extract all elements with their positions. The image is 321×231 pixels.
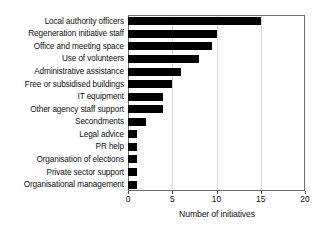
category-label: Local authority officers	[45, 17, 124, 26]
category-label: Private sector support	[47, 168, 124, 177]
bar-row	[128, 78, 306, 91]
category-label: Other agency staff support	[30, 105, 124, 114]
category-label-row: Regeneration initiative staff	[0, 28, 126, 41]
category-label-row: Secondments	[0, 116, 126, 129]
tick-label: 5	[170, 194, 175, 204]
category-label-row: Organisational management	[0, 178, 126, 191]
category-label-row: Free or subsidised buildings	[0, 78, 126, 91]
category-label: Administrative assistance	[34, 67, 124, 76]
bar-row	[128, 166, 306, 179]
bar-row	[128, 40, 306, 53]
category-label: Use of volunteers	[62, 54, 124, 63]
bar-row	[128, 103, 306, 116]
category-label: Organisation of elections	[36, 155, 124, 164]
category-label: Office and meeting space	[34, 42, 124, 51]
category-label-row: Private sector support	[0, 166, 126, 179]
bar	[128, 80, 172, 88]
bar	[128, 118, 146, 126]
category-label: Regeneration initiative staff	[28, 29, 124, 38]
category-label-row: Legal advice	[0, 128, 126, 141]
category-label: IT equipment	[78, 92, 124, 101]
tick-label: 10	[212, 194, 221, 204]
bar-row	[128, 15, 306, 28]
category-label: Free or subsidised buildings	[25, 80, 124, 89]
x-axis-ticks: 05101520	[128, 191, 306, 201]
bar-row	[128, 65, 306, 78]
category-label: Legal advice	[79, 130, 124, 139]
bar-row	[128, 141, 306, 154]
bar	[128, 155, 137, 163]
category-label-row: IT equipment	[0, 90, 126, 103]
bar	[128, 143, 137, 151]
bar	[128, 181, 137, 189]
bar-row	[128, 153, 306, 166]
tick-label: 15	[256, 194, 265, 204]
bar	[128, 168, 137, 176]
category-label-row: Office and meeting space	[0, 40, 126, 53]
category-label: PR help	[96, 142, 124, 151]
bar-row	[128, 28, 306, 41]
category-labels: Local authority officers Regeneration in…	[0, 15, 126, 191]
bar-row	[128, 178, 306, 191]
category-label-row: Administrative assistance	[0, 65, 126, 78]
bar	[128, 55, 199, 63]
bar	[128, 130, 137, 138]
x-axis-title: Number of initiatives	[128, 209, 306, 219]
category-label-row: Other agency staff support	[0, 103, 126, 116]
bar	[128, 105, 163, 113]
bar-series	[128, 15, 306, 191]
tick-label: 20	[300, 194, 309, 204]
tick-label: 0	[126, 194, 131, 204]
bar-chart: Local authority officers Regeneration in…	[0, 0, 321, 231]
bar-row	[128, 116, 306, 129]
category-label: Secondments	[75, 117, 124, 126]
category-label: Organisational management	[24, 180, 124, 189]
category-label-row: PR help	[0, 141, 126, 154]
bar	[128, 17, 261, 25]
bar	[128, 68, 181, 76]
category-label-row: Local authority officers	[0, 15, 126, 28]
bar	[128, 93, 163, 101]
bar-row	[128, 53, 306, 66]
category-label-row: Organisation of elections	[0, 153, 126, 166]
bar	[128, 30, 217, 38]
bar	[128, 42, 212, 50]
category-label-row: Use of volunteers	[0, 53, 126, 66]
bar-row	[128, 128, 306, 141]
bar-row	[128, 90, 306, 103]
